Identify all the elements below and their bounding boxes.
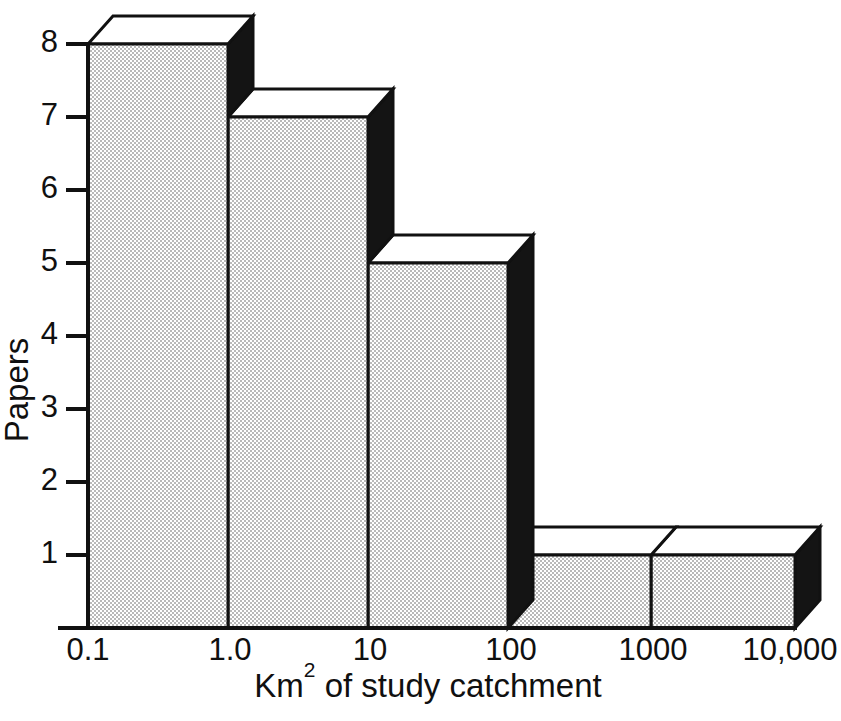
bar-side-face (508, 235, 533, 628)
y-tick-label-4: 4 (41, 316, 58, 351)
y-tick-label-6: 6 (41, 170, 58, 205)
bar-top-face (228, 89, 393, 117)
x-tick-label-0: 0.1 (66, 632, 109, 667)
x-axis-title-base: Km (254, 667, 304, 704)
x-tick-label-1: 1.0 (208, 632, 251, 667)
chart-canvas: 1 2 3 4 5 6 7 8 0.1 1.0 10 100 1000 10,0… (0, 0, 841, 721)
bar-top-face (88, 16, 253, 44)
bar-side-face (368, 89, 393, 263)
bar-group-10 (368, 235, 533, 628)
x-tick-label-2: 10 (353, 632, 387, 667)
bar-front-face (228, 117, 368, 628)
bar-front-face (368, 263, 508, 628)
bar-chart-figure: 1 2 3 4 5 6 7 8 0.1 1.0 10 100 1000 10,0… (0, 0, 841, 721)
x-axis-title-superscript: 2 (304, 658, 316, 681)
x-tick-label-3: 100 (485, 632, 537, 667)
bar-top-face (651, 527, 820, 555)
y-tick-label-2: 2 (41, 462, 58, 497)
bar-front-face (88, 44, 228, 628)
y-tick-label-8: 8 (41, 24, 58, 59)
bar-group-1.0 (228, 89, 393, 628)
x-tick-label-4: 1000 (619, 632, 688, 667)
bar-group-1000 (651, 527, 820, 628)
x-axis-title-rest: of study catchment (316, 667, 602, 704)
bar-top-face (368, 235, 533, 263)
x-tick-label-5: 10,000 (743, 632, 838, 667)
x-axis-title: Km2 of study catchment (254, 658, 601, 704)
y-tick-label-3: 3 (41, 389, 58, 424)
y-tick-label-1: 1 (41, 535, 58, 570)
y-axis-title: Papers (0, 338, 35, 443)
y-tick-label-5: 5 (41, 243, 58, 278)
bar-front-face (651, 555, 795, 628)
bar-group-0.1 (88, 16, 253, 628)
y-tick-label-7: 7 (41, 97, 58, 132)
y-axis (66, 44, 88, 628)
